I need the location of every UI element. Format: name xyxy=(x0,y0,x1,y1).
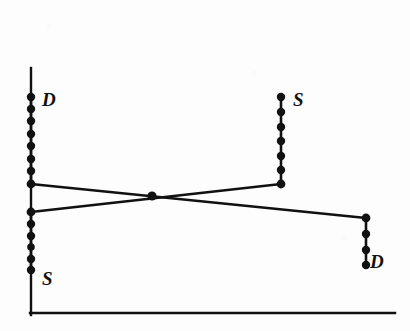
demand-dot xyxy=(27,155,35,163)
supply-dot xyxy=(277,152,285,160)
supply-dot xyxy=(277,93,285,101)
demand-dot xyxy=(362,246,370,254)
demand-dot xyxy=(27,167,35,175)
figure-canvas: D S S D xyxy=(0,0,410,331)
demand-dot xyxy=(27,130,35,138)
demand-dot xyxy=(362,214,371,223)
supply-dot xyxy=(277,108,285,116)
supply-dot xyxy=(277,137,285,145)
supply-dot xyxy=(277,180,286,189)
demand-segment xyxy=(31,184,366,218)
supply-dot xyxy=(27,208,36,217)
demand-dot xyxy=(27,117,35,125)
demand-dot xyxy=(27,180,36,189)
demand-dot xyxy=(27,105,35,113)
supply-label-upper-right: S xyxy=(293,89,304,110)
supply-dot xyxy=(277,166,285,174)
demand-dot xyxy=(362,230,370,238)
demand-label-lower-right: D xyxy=(369,251,384,272)
supply-dot xyxy=(277,123,285,131)
demand-dot xyxy=(27,142,35,150)
supply-label-lower-left: S xyxy=(42,268,53,289)
demand-dot xyxy=(27,93,35,101)
supply-dot xyxy=(27,220,35,228)
equilibrium-point xyxy=(147,191,156,200)
supply-dot xyxy=(27,255,35,263)
demand-dot xyxy=(362,261,370,269)
demand-curve xyxy=(27,93,371,269)
supply-dot xyxy=(27,232,35,240)
supply-demand-diagram: D S S D xyxy=(0,0,410,331)
supply-curve xyxy=(27,93,286,274)
supply-dot xyxy=(27,243,35,251)
supply-dot xyxy=(27,266,35,274)
demand-label-upper-left: D xyxy=(41,89,56,110)
